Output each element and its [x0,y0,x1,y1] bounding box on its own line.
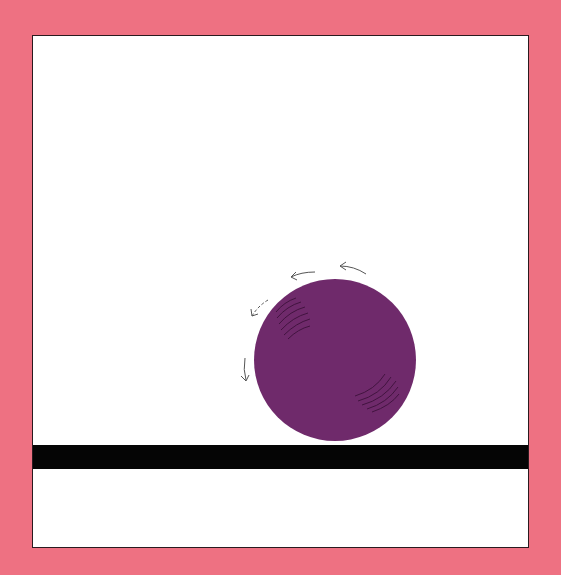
ball-illustration [0,0,561,575]
rolling-ball [254,279,416,441]
